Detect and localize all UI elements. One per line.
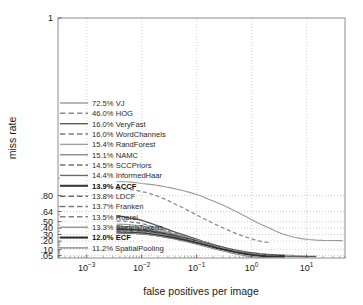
legend-label-franken: 13.7% Franken — [92, 202, 144, 211]
roc-plot-svg: 1.80.64.50.40.30.20.10.05 10−310−210−110… — [0, 0, 363, 305]
x-axis-title: false positives per image — [143, 285, 259, 297]
y-axis-title: miss rate — [6, 117, 18, 160]
y-tick-label-1: .80 — [40, 191, 53, 201]
legend-label-randforest: 15.4% RandForest — [92, 140, 156, 149]
legend-label-vj: 72.5% VJ — [92, 99, 125, 108]
legend-label-wordchannels: 16.0% WordChannels — [92, 130, 166, 139]
legend-label-namc: 15.1% NAMC — [92, 151, 139, 160]
legend-label-hog: 46.0% HOG — [92, 109, 133, 118]
chart-background — [0, 0, 363, 305]
legend-label-sccpriors: 14.5% SCCPriors — [92, 161, 152, 170]
legend-label-veryfast: 16.0% VeryFast — [92, 120, 146, 129]
y-tick-label-2: .64 — [40, 207, 53, 217]
legend-label-ecf: 12.0% ECF — [92, 233, 131, 242]
legend-label-accf: 13.9% ACCF — [92, 182, 137, 191]
y-tick-label-0: 1 — [48, 13, 53, 23]
y-tick-label-8: .05 — [40, 251, 53, 261]
legend-label-sketchtokens: 13.3% SketchTokens — [92, 223, 163, 232]
legend-label-spatialpooling: 11.2% SpatialPooling — [92, 244, 164, 253]
legend-label-roerei: 13.5% Roerei — [92, 213, 138, 222]
roc-chart-figure: 1.80.64.50.40.30.20.10.05 10−310−210−110… — [0, 0, 363, 305]
legend-label-informedhaar: 14.4% InformedHaar — [92, 171, 163, 180]
legend-label-ldcf: 13.8% LDCF — [92, 192, 136, 201]
